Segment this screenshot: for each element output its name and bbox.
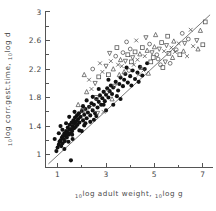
- y-tick-label: 1.4: [29, 122, 42, 131]
- data-point-filled: [85, 116, 89, 120]
- data-point-open-circle: [156, 57, 160, 61]
- data-point-open-circle: [114, 54, 118, 58]
- data-point-open-circle: [121, 51, 125, 55]
- data-point-open-circle: [180, 31, 184, 35]
- data-point-open-square: [151, 56, 155, 60]
- data-point-filled: [118, 97, 122, 101]
- data-point-filled: [116, 88, 120, 92]
- data-point-open-triangle-down: [93, 81, 97, 85]
- data-point-open-triangle-down: [150, 51, 154, 55]
- y-tick-label: 2.6: [29, 36, 42, 45]
- data-point-filled: [122, 78, 126, 82]
- data-point-filled: [69, 158, 73, 162]
- data-point-filled: [126, 81, 130, 85]
- data-point-open-circle: [155, 53, 159, 57]
- data-point-filled: [72, 110, 76, 114]
- data-point-open-triangle-down: [123, 59, 127, 63]
- data-point-filled: [80, 129, 84, 133]
- fit-line: [48, 15, 210, 164]
- data-point-open-triangle: [118, 57, 122, 61]
- y-tick-label: 1.8: [29, 93, 42, 102]
- data-point-open-square: [166, 34, 170, 38]
- y-tick-label: 1: [36, 150, 41, 159]
- data-point-open-triangle: [154, 32, 158, 36]
- data-point-filled: [128, 74, 132, 78]
- x-tick-label: 5: [152, 170, 157, 179]
- data-point-filled: [62, 147, 66, 151]
- data-point-open-square: [97, 75, 101, 79]
- data-point-filled: [57, 131, 61, 135]
- data-point-cross: [120, 64, 124, 68]
- data-point-filled: [60, 128, 64, 132]
- data-point-cross: [116, 63, 120, 67]
- data-point-open-square: [126, 53, 130, 57]
- data-point-filled: [103, 99, 107, 103]
- data-point-open-circle: [168, 61, 172, 65]
- data-point-cross: [134, 39, 138, 43]
- data-points: [53, 20, 207, 162]
- data-point-filled: [53, 137, 57, 141]
- data-point-cross: [136, 58, 140, 62]
- y-axis-title-main2: log d: [3, 32, 12, 53]
- data-point-open-circle: [127, 69, 131, 73]
- x-axis-title: 10log adult weight, 10log g: [75, 189, 183, 199]
- data-point-open-triangle-down: [104, 64, 108, 68]
- data-point-filled: [106, 96, 110, 100]
- data-point-open-triangle-down: [144, 36, 148, 40]
- data-point-cross: [132, 63, 136, 67]
- data-point-cross: [169, 46, 173, 50]
- data-point-open-triangle-down: [157, 47, 161, 51]
- data-point-cross: [90, 87, 94, 91]
- data-point-filled: [137, 80, 141, 84]
- data-point-open-triangle: [85, 90, 89, 94]
- data-point-filled: [58, 124, 62, 128]
- data-point-filled: [79, 115, 83, 119]
- data-point-filled: [77, 120, 81, 124]
- data-point-open-triangle-down: [164, 44, 168, 48]
- data-point-filled: [140, 73, 144, 77]
- data-point-open-triangle: [138, 52, 142, 56]
- data-point-cross: [189, 28, 193, 32]
- data-point-filled: [118, 76, 122, 80]
- regression-line: [48, 15, 210, 164]
- data-point-filled: [54, 149, 58, 153]
- data-point-open-triangle-down: [131, 56, 135, 60]
- data-point-filled: [114, 80, 118, 84]
- data-point-filled: [63, 139, 67, 143]
- data-point-open-triangle: [76, 102, 80, 106]
- data-point-cross: [109, 59, 113, 63]
- data-point-open-triangle: [181, 49, 185, 53]
- y-axis-title-main1: log corr.gest.time,: [3, 60, 12, 139]
- data-point-filled: [70, 133, 74, 137]
- data-point-filled: [97, 87, 101, 91]
- data-point-cross: [191, 44, 195, 48]
- data-point-open-circle: [128, 47, 132, 51]
- data-point-filled: [82, 113, 86, 117]
- data-point-open-triangle: [172, 39, 176, 43]
- data-point-cross: [87, 78, 91, 82]
- y-axis-title-sub1: 10: [7, 139, 13, 146]
- data-point-open-circle: [125, 40, 129, 44]
- data-point-filled: [67, 115, 71, 119]
- data-point-open-circle: [159, 63, 163, 67]
- data-point-open-triangle: [152, 45, 156, 49]
- x-tick-label: 3: [103, 170, 108, 179]
- data-point-open-triangle: [198, 28, 202, 32]
- data-point-cross: [98, 61, 102, 65]
- data-point-cross: [100, 70, 104, 74]
- data-point-filled: [115, 94, 119, 98]
- data-point-open-circle: [91, 67, 95, 71]
- data-point-open-square: [140, 46, 144, 50]
- data-point-filled: [66, 140, 70, 144]
- data-point-open-square: [133, 50, 137, 54]
- data-point-cross: [162, 49, 166, 53]
- data-point-open-triangle-down: [195, 39, 199, 43]
- data-point-filled: [95, 106, 99, 110]
- data-point-open-triangle: [145, 48, 149, 52]
- data-point-open-square: [201, 43, 205, 47]
- data-point-open-square: [160, 41, 164, 45]
- data-point-filled: [71, 137, 75, 141]
- data-point-open-triangle: [196, 47, 200, 51]
- data-point-filled: [92, 103, 96, 107]
- data-point-filled: [64, 121, 68, 125]
